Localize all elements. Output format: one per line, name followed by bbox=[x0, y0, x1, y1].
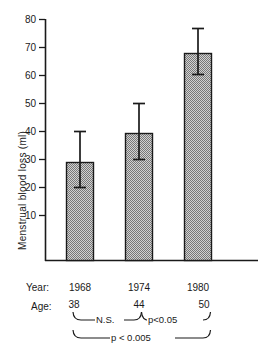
bar-1968 bbox=[67, 132, 94, 261]
bar-1974 bbox=[126, 104, 153, 261]
year-value-1968: 1968 bbox=[60, 282, 100, 293]
year-row-label: Year: bbox=[26, 282, 49, 293]
year-value-1980: 1980 bbox=[178, 282, 218, 293]
age-value-50: 50 bbox=[190, 299, 218, 310]
age-value-38: 38 bbox=[60, 299, 88, 310]
bar-1980 bbox=[185, 29, 212, 261]
year-value-1974: 1974 bbox=[119, 282, 159, 293]
significance-label-ns: N.S. bbox=[95, 314, 115, 325]
age-value-44: 44 bbox=[125, 299, 153, 310]
y-axis-ticks bbox=[39, 20, 45, 216]
significance-label-p005: p < 0.005 bbox=[110, 332, 152, 343]
significance-label-p05: p<0.05 bbox=[147, 314, 178, 325]
age-row-label: Age: bbox=[31, 301, 52, 312]
chart-figure: Menstrual blood loss (ml) 80 70 60 50 40… bbox=[0, 0, 267, 353]
